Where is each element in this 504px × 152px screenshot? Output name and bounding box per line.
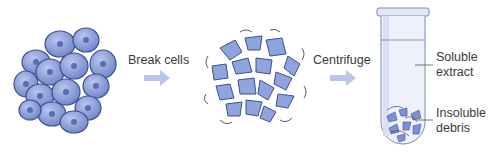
broken-cells-cluster [200, 28, 310, 128]
arrow-right-icon [330, 70, 356, 86]
soluble-label-line2: extract [436, 65, 478, 80]
insoluble-label-line2: debris [436, 121, 486, 136]
insoluble-label-line1: Insoluble [436, 106, 486, 121]
arrow-right-icon [144, 70, 170, 86]
soluble-extract-label: Soluble extract [436, 50, 478, 80]
insoluble-debris-label: Insoluble debris [436, 106, 486, 136]
soluble-label-line1: Soluble [436, 50, 478, 65]
intact-cells-cluster [8, 22, 118, 137]
centrifuge-label: Centrifuge [313, 53, 371, 68]
break-cells-label: Break cells [128, 53, 189, 68]
